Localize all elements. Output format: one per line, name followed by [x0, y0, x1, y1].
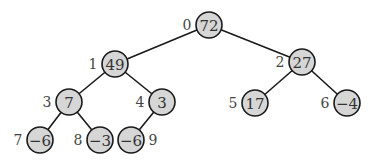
tree-edges — [40, 25, 347, 140]
node-value: 72 — [199, 17, 218, 35]
node-index-label: 7 — [14, 132, 23, 148]
node-index-label: 4 — [136, 94, 145, 110]
node-index-label: 3 — [43, 94, 52, 110]
tree-node: 34 — [136, 89, 175, 115]
node-index-label: 9 — [149, 132, 158, 148]
node-index-label: 1 — [89, 56, 98, 72]
node-index-label: 0 — [183, 17, 192, 33]
tree-node: 272 — [276, 49, 315, 75]
tree-node: 491 — [89, 51, 128, 77]
node-index-label: 6 — [321, 95, 330, 111]
node-value: 49 — [105, 56, 124, 74]
node-index-label: 2 — [276, 54, 285, 70]
node-value: −4 — [336, 95, 358, 113]
tree-node: 175 — [229, 90, 268, 116]
tree-node: −69 — [118, 127, 157, 153]
node-value: 27 — [292, 54, 311, 72]
node-value: −6 — [29, 132, 51, 150]
node-value: 7 — [64, 94, 74, 112]
tree-node: −46 — [321, 90, 360, 116]
node-value: 17 — [245, 95, 264, 113]
tree-node: −67 — [14, 127, 53, 153]
tree-nodes: 7204912727334175−46−67−38−69 — [14, 12, 360, 153]
node-value: −3 — [89, 132, 111, 150]
tree-node: 73 — [43, 89, 82, 115]
node-value: 3 — [157, 94, 167, 112]
node-index-label: 8 — [74, 132, 83, 148]
binary-tree-diagram: 7204912727334175−46−67−38−69 — [0, 0, 374, 163]
node-index-label: 5 — [229, 95, 238, 111]
tree-edge — [115, 25, 209, 64]
tree-edge — [209, 25, 302, 62]
tree-node: −38 — [74, 127, 113, 153]
node-value: −6 — [120, 132, 142, 150]
